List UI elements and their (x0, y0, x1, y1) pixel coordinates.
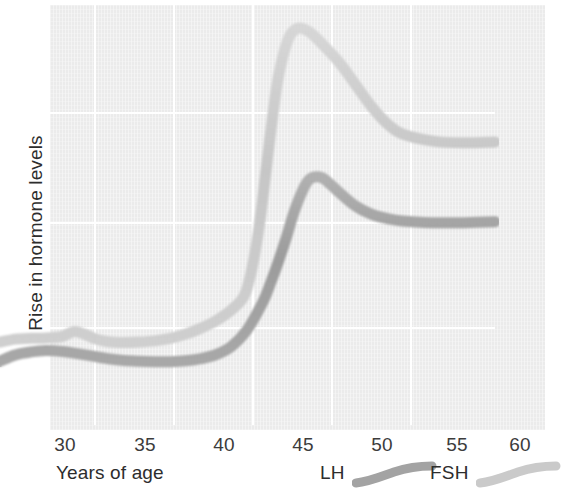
series-band-fsh (0, 28, 495, 343)
y-axis-title: Rise in hormone levels (25, 93, 47, 373)
x-tick-50: 50 (362, 434, 402, 456)
legend-swatch-fsh (476, 459, 562, 489)
chart-canvas (0, 0, 501, 488)
x-axis-tick-labels: 30 35 40 45 50 55 60 (0, 434, 551, 462)
legend-swatch-lh (352, 459, 438, 489)
x-tick-40: 40 (204, 434, 244, 456)
x-tick-30: 30 (45, 434, 85, 456)
x-tick-45: 45 (283, 434, 323, 456)
chart-legend: LH FSH (0, 459, 551, 493)
legend-label-lh: LH (320, 462, 345, 484)
x-tick-55: 55 (437, 434, 477, 456)
x-tick-35: 35 (125, 434, 165, 456)
legend-label-fsh: FSH (430, 462, 469, 484)
x-tick-60: 60 (500, 434, 540, 456)
